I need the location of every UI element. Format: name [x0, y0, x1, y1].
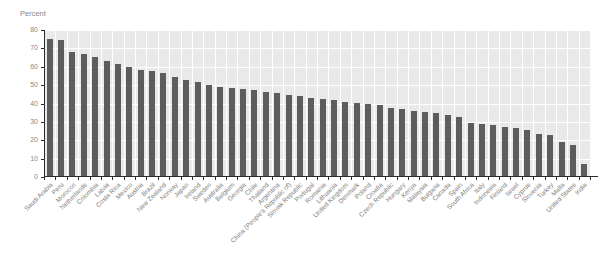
- x-tick-mark: [226, 177, 227, 180]
- v-gridline: [488, 30, 489, 177]
- v-gridline: [135, 30, 136, 177]
- x-tick-label: Saudi Arabia: [23, 181, 54, 212]
- v-gridline: [510, 30, 511, 177]
- v-gridline: [226, 30, 227, 177]
- v-gridline: [237, 30, 238, 177]
- v-gridline: [476, 30, 477, 177]
- v-gridline: [545, 30, 546, 177]
- x-tick-mark: [192, 177, 193, 180]
- v-gridline: [215, 30, 216, 177]
- x-tick-mark: [112, 177, 113, 180]
- x-tick-mark: [249, 177, 250, 180]
- plot-area: [44, 30, 590, 177]
- v-gridline: [192, 30, 193, 177]
- bar-georgia: [240, 89, 246, 177]
- x-tick-mark: [579, 177, 580, 180]
- x-tick-mark: [203, 177, 204, 180]
- v-gridline: [112, 30, 113, 177]
- bar-saudi-arabia: [47, 39, 53, 177]
- v-gridline: [408, 30, 409, 177]
- v-gridline: [306, 30, 307, 177]
- x-tick-mark: [567, 177, 568, 180]
- x-tick-mark: [419, 177, 420, 180]
- y-tick-label: 0: [8, 173, 38, 181]
- v-gridline: [294, 30, 295, 177]
- bar-latvia: [104, 61, 110, 177]
- bar-indonesia: [490, 125, 496, 177]
- v-gridline: [169, 30, 170, 177]
- v-gridline: [499, 30, 500, 177]
- v-gridline: [579, 30, 580, 177]
- v-gridline: [363, 30, 364, 177]
- x-tick-mark: [351, 177, 352, 180]
- bar-spain: [456, 117, 462, 177]
- y-tick-mark: [41, 122, 44, 123]
- bar-slovak-republic: [297, 96, 303, 177]
- y-tick-mark: [41, 140, 44, 141]
- x-tick-label: India: [573, 181, 588, 196]
- bar-chile: [251, 90, 257, 177]
- y-tick-label: 80: [8, 26, 38, 34]
- x-tick-mark: [55, 177, 56, 180]
- y-tick-mark: [41, 67, 44, 68]
- x-tick-mark: [215, 177, 216, 180]
- v-gridline: [78, 30, 79, 177]
- x-tick-mark: [476, 177, 477, 180]
- x-tick-mark: [237, 177, 238, 180]
- bar-hungary: [399, 109, 405, 177]
- bar-australia: [217, 87, 223, 177]
- x-tick-mark: [78, 177, 79, 180]
- bar-costa-rica: [115, 64, 121, 177]
- bar-cyprus: [524, 130, 530, 177]
- bar-ireland: [195, 82, 201, 177]
- bar-poland: [365, 104, 371, 177]
- x-tick-mark: [533, 177, 534, 180]
- x-tick-mark: [169, 177, 170, 180]
- x-tick-mark: [328, 177, 329, 180]
- x-tick-mark: [44, 177, 45, 180]
- bar-colombia: [92, 57, 98, 177]
- y-axis-title: Percent: [20, 9, 46, 18]
- x-tick-mark: [101, 177, 102, 180]
- x-tick-mark: [146, 177, 147, 180]
- x-tick-mark: [499, 177, 500, 180]
- x-tick-mark: [431, 177, 432, 180]
- v-gridline: [328, 30, 329, 177]
- bar-morocco: [69, 52, 75, 177]
- bar-italy: [479, 124, 485, 177]
- y-tick-label: 50: [8, 81, 38, 89]
- x-tick-mark: [135, 177, 136, 180]
- bar-canada: [445, 115, 451, 177]
- x-tick-mark: [522, 177, 523, 180]
- y-tick-label: 20: [8, 136, 38, 144]
- x-tick-mark: [272, 177, 273, 180]
- v-gridline: [181, 30, 182, 177]
- bar-portugal: [308, 98, 314, 177]
- v-gridline: [317, 30, 318, 177]
- v-gridline: [590, 30, 591, 177]
- bar-netherlands: [81, 54, 87, 177]
- v-gridline: [454, 30, 455, 177]
- bar-croatia: [377, 105, 383, 177]
- v-gridline: [431, 30, 432, 177]
- y-tick-label: 60: [8, 63, 38, 71]
- x-tick-mark: [374, 177, 375, 180]
- bar-kenya: [411, 111, 417, 177]
- y-tick-mark: [41, 48, 44, 49]
- bar-malta: [559, 142, 565, 177]
- bar-united-states: [570, 145, 576, 177]
- x-tick-mark: [397, 177, 398, 180]
- x-tick-mark: [454, 177, 455, 180]
- bar-thailand: [263, 92, 269, 177]
- y-tick-mark: [41, 85, 44, 86]
- bar-slovenia: [536, 134, 542, 177]
- x-axis-line: [44, 176, 598, 177]
- v-gridline: [124, 30, 125, 177]
- bar-lithuania: [331, 100, 337, 177]
- bar-chart-figure: Percent 01020304050607080 Saudi ArabiaPe…: [0, 0, 607, 270]
- x-tick-mark: [260, 177, 261, 180]
- x-tick-mark: [306, 177, 307, 180]
- v-gridline: [55, 30, 56, 177]
- x-tick-mark: [363, 177, 364, 180]
- bar-denmark: [354, 103, 360, 177]
